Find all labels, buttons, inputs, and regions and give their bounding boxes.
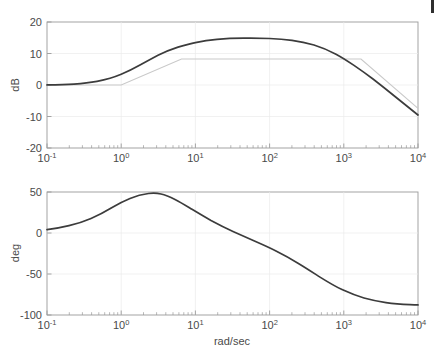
page-edge-mark bbox=[431, 0, 434, 13]
magnitude-xtick-1e3: 103 bbox=[336, 151, 352, 165]
magnitude-xtick-1e2: 102 bbox=[261, 151, 277, 165]
magnitude-xtick-1e0: 100 bbox=[113, 151, 129, 165]
bode-plot-figure: 20 10 0 -10 -20 dB 10-1 100 101 102 103 … bbox=[0, 0, 443, 356]
magnitude-xtick-1e-1: 10-1 bbox=[38, 151, 57, 165]
phase-xtick-1e-1: 10-1 bbox=[38, 318, 57, 332]
phase-ylabel: deg bbox=[9, 244, 21, 262]
phase-xtick-1e3: 103 bbox=[336, 318, 352, 332]
bode-plot-svg: 20 10 0 -10 -20 dB 10-1 100 101 102 103 … bbox=[0, 0, 443, 356]
phase-plot: 50 0 -50 -100 deg 10-1 100 101 102 103 1… bbox=[9, 186, 426, 347]
phase-xtick-1e1: 101 bbox=[187, 318, 203, 332]
phase-ytick-0: 0 bbox=[36, 227, 42, 239]
phase-plot-frame bbox=[47, 192, 418, 315]
magnitude-ytick-neg10: -10 bbox=[26, 111, 42, 123]
phase-xtick-1e4: 104 bbox=[410, 318, 426, 332]
phase-xtick-1e2: 102 bbox=[261, 318, 277, 332]
phase-xtick-1e0: 100 bbox=[113, 318, 129, 332]
magnitude-ytick-10: 10 bbox=[30, 48, 42, 60]
magnitude-ytick-0: 0 bbox=[36, 79, 42, 91]
magnitude-xtick-1e1: 101 bbox=[187, 151, 203, 165]
phase-ytick-50: 50 bbox=[30, 186, 42, 198]
magnitude-xtick-labels: 10-1 100 101 102 103 104 bbox=[38, 151, 427, 165]
magnitude-ylabel: dB bbox=[9, 78, 21, 91]
phase-ytick-neg50: -50 bbox=[26, 268, 42, 280]
magnitude-plot: 20 10 0 -10 -20 dB 10-1 100 101 102 103 … bbox=[9, 16, 426, 164]
magnitude-ytick-20: 20 bbox=[30, 16, 42, 28]
magnitude-xtick-1e4: 104 bbox=[410, 151, 426, 165]
phase-xtick-labels: 10-1 100 101 102 103 104 bbox=[38, 318, 427, 332]
phase-xlabel: rad/sec bbox=[214, 335, 251, 347]
